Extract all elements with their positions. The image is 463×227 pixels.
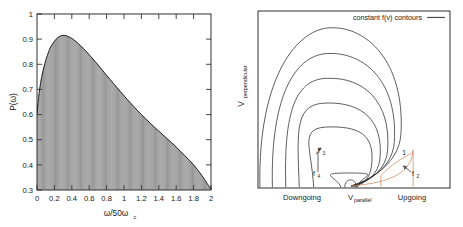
annotation-1-label: 1	[402, 149, 406, 156]
right-y-axis-title: V perpendicular	[236, 65, 248, 107]
left-x-axis-title-main: ω/50ω	[104, 208, 129, 218]
contour-legend: constant f(v) contours	[353, 13, 445, 22]
legend-label: constant f(v) contours	[353, 13, 423, 22]
x-ticklabel: 1	[122, 194, 126, 203]
y-ticklabel: 0.4	[22, 161, 33, 170]
annotation-f2: f 2	[404, 166, 420, 179]
left-x-axis-title-sub: c	[134, 214, 137, 220]
x-ticklabel: 1.6	[171, 194, 182, 203]
right-chart-panel: constant f(v) contours 1 f 2	[232, 0, 463, 227]
contour-family	[260, 28, 401, 188]
contour-annotations: 1 f 2 f 3 f	[313, 147, 419, 179]
x-ticklabel: 0.2	[49, 194, 60, 203]
spectrum-hatch-fill	[37, 35, 211, 190]
y-ticklabel: 0.3	[22, 186, 33, 195]
contour-line	[260, 28, 401, 188]
annotation-f2-label: f	[412, 170, 414, 177]
right-x-labels: Downgoing V parallel Upgoing	[283, 193, 426, 203]
left-x-ticklabels: 0 0.2 0.4 0.6 0.8 1 1.2 1.4 1.6 1.8 2	[35, 194, 213, 203]
y-ticklabel: 0.8	[22, 60, 33, 69]
y-ticklabel: 0.9	[22, 35, 33, 44]
x-ticklabel: 2	[209, 194, 213, 203]
x-ticklabel: 0.6	[84, 194, 95, 203]
y-ticklabel: 0.6	[22, 110, 33, 119]
y-ticklabel: 0.5	[22, 135, 33, 144]
annotation-f4-label: f	[313, 170, 315, 177]
contour-line	[286, 78, 388, 187]
left-y-axis-title: P(ω)	[8, 93, 18, 111]
annotation-f4-sub: 4	[317, 174, 320, 179]
right-plot-frame	[258, 11, 450, 188]
x-ticklabel: 1.4	[154, 194, 165, 203]
power-spectrum-svg: 0.3 0.4 0.5 0.6 0.7 0.8 0.9 1 0 0.2 0.4 …	[0, 0, 232, 227]
annotation-f2-sub: 2	[416, 174, 419, 179]
y-ticklabel: 1	[29, 10, 33, 19]
right-y-axis-title-sub: perpendicular	[242, 65, 248, 98]
x-ticklabel: 0.8	[101, 194, 112, 203]
annotation-f4: f 4	[313, 152, 320, 179]
left-chart-panel: 0.3 0.4 0.5 0.6 0.7 0.8 0.9 1 0 0.2 0.4 …	[0, 0, 232, 227]
x-ticklabel: 0.4	[67, 194, 78, 203]
label-v-parallel: V parallel	[348, 193, 371, 203]
left-y-ticklabels: 0.3 0.4 0.5 0.6 0.7 0.8 0.9 1	[22, 10, 33, 195]
x-ticklabel: 0	[35, 194, 39, 203]
annotation-f3: f 3	[316, 147, 325, 156]
annotation-f3-sub: 3	[322, 151, 325, 156]
label-upgoing: Upgoing	[398, 193, 426, 202]
figure-container: 0.3 0.4 0.5 0.6 0.7 0.8 0.9 1 0 0.2 0.4 …	[0, 0, 463, 227]
label-v-parallel-sub: parallel	[354, 197, 371, 203]
y-ticklabel: 0.7	[22, 85, 33, 94]
label-downgoing: Downgoing	[283, 193, 321, 202]
velocity-contours-svg: constant f(v) contours 1 f 2	[232, 0, 463, 227]
left-x-axis-title: ω/50ω c	[104, 208, 137, 220]
contour-line	[272, 53, 394, 187]
right-y-axis-title-main: V	[236, 101, 246, 107]
x-ticklabel: 1.2	[136, 194, 147, 203]
x-ticklabel: 1.8	[188, 194, 199, 203]
